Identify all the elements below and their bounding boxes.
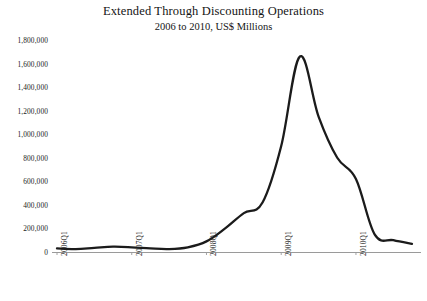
plot-area: 1,800,0001,600,0001,400,0001,200,0001,00… [0,0,427,301]
x-axis-tick-label: 2010Q1 [359,231,368,256]
x-axis-tick-labels: 2006Q12007Q12008Q12009Q12010Q1 [0,0,427,301]
x-axis-tick-label: 2007Q1 [135,231,144,256]
x-axis-tick-label: 2006Q1 [60,231,69,256]
x-axis-tick-label: 2009Q1 [284,231,293,256]
chart-figure: Extended Through Discounting Operations … [0,0,427,301]
x-axis-tick-label: 2008Q1 [209,231,218,256]
